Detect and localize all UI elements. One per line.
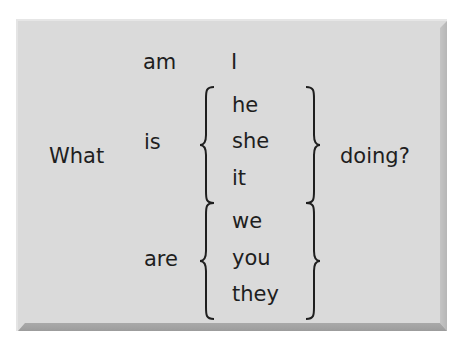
- verb-is: is: [144, 132, 161, 153]
- subject-you: you: [232, 248, 271, 269]
- question-word-doing: doing?: [340, 146, 410, 167]
- verb-am: am: [143, 52, 176, 73]
- verb-are: are: [144, 249, 178, 270]
- panel-bevel-right: [440, 21, 447, 331]
- right-brace-icon: [302, 85, 322, 205]
- subject-they: they: [232, 284, 279, 305]
- subject-we: we: [232, 211, 262, 232]
- panel-bevel-bottom: [18, 323, 447, 331]
- subject-i: I: [231, 52, 237, 73]
- subject-he: he: [232, 95, 258, 116]
- left-brace-icon: [198, 201, 218, 321]
- right-brace-icon: [302, 201, 322, 321]
- subject-it: it: [232, 168, 246, 189]
- question-word-what: What: [49, 146, 104, 167]
- subject-she: she: [232, 131, 269, 152]
- left-brace-icon: [198, 85, 218, 205]
- grammar-panel: What am I is he she it doing? are we you…: [16, 19, 447, 331]
